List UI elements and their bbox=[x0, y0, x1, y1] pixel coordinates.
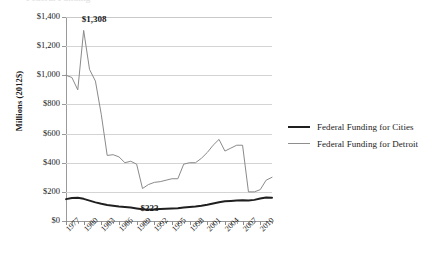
y-tick-label: $1,400 bbox=[0, 11, 60, 21]
legend-swatch-detroit-icon bbox=[288, 143, 310, 144]
y-tick-label: $800 bbox=[0, 98, 60, 108]
y-tick-label: $200 bbox=[0, 186, 60, 196]
annotation-label: $1,308 bbox=[82, 14, 107, 24]
chart-container: Federal Funding Millions (2012$) $0$200$… bbox=[0, 0, 444, 269]
line-federal-funding-detroit bbox=[66, 30, 272, 191]
line-federal-funding-cities bbox=[66, 197, 272, 209]
legend-item-detroit[interactable]: Federal Funding for Detroit bbox=[288, 135, 418, 152]
y-tick-label: $0 bbox=[0, 215, 60, 225]
legend-label-cities: Federal Funding for Cities bbox=[317, 122, 414, 132]
series-lines bbox=[66, 17, 272, 221]
annotation-label: $223 bbox=[141, 203, 159, 213]
y-tick-label: $400 bbox=[0, 157, 60, 167]
y-tick-label: $1,200 bbox=[0, 40, 60, 50]
chart-legend: Federal Funding for Cities Federal Fundi… bbox=[288, 118, 418, 152]
clipped-chart-title: Federal Funding bbox=[26, 0, 286, 3]
y-tick-label: $1,000 bbox=[0, 69, 60, 79]
y-tick-label: $600 bbox=[0, 128, 60, 138]
plot-area bbox=[66, 17, 272, 221]
legend-swatch-cities-icon bbox=[288, 126, 310, 128]
legend-label-detroit: Federal Funding for Detroit bbox=[317, 139, 418, 149]
legend-item-cities[interactable]: Federal Funding for Cities bbox=[288, 118, 418, 135]
